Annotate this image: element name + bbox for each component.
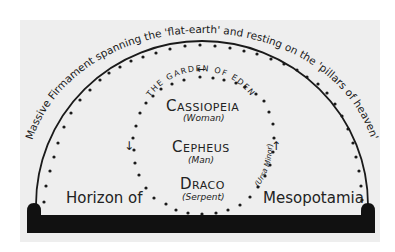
arrow-left-icon: ←	[196, 63, 205, 76]
cepheus-label: Cepheus	[172, 138, 230, 156]
cassiopeia-subtitle: (Woman)	[183, 113, 224, 123]
arrow-down-icon: ↓	[124, 139, 134, 153]
left-pillar	[27, 203, 41, 215]
horizon-right-label: Mesopotamia	[263, 189, 364, 207]
cepheus-subtitle: (Man)	[188, 155, 214, 165]
draco-label: Draco	[180, 175, 225, 193]
ground-bar	[27, 203, 375, 233]
horizon-left-label: Horizon of	[66, 189, 143, 207]
firmament-diagram: Massive Firmament spanning the 'flat-ear…	[0, 0, 395, 252]
arrow-up-icon: ↑	[271, 139, 281, 153]
draco-subtitle: (Serpent)	[182, 192, 224, 202]
